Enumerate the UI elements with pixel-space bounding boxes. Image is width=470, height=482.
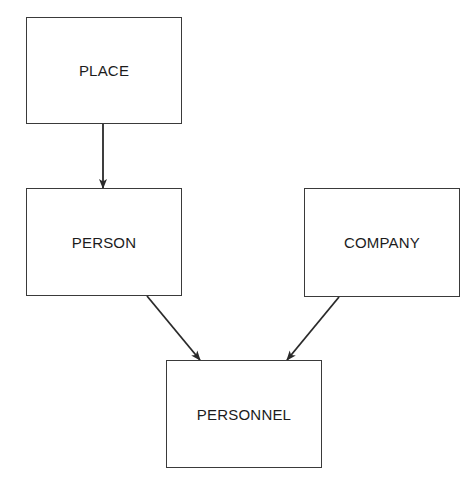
entity-place: PLACE [26,17,182,124]
entity-label: PERSONNEL [197,406,291,423]
entity-personnel: PERSONNEL [166,360,322,468]
entity-person: PERSON [26,188,182,296]
entity-label: COMPANY [344,234,420,251]
arrow-person-to-personnel [147,296,200,360]
arrow-company-to-personnel [287,297,339,360]
diagram-canvas: PLACE PERSON COMPANY PERSONNEL [0,0,470,482]
entity-label: PERSON [72,234,137,251]
entity-company: COMPANY [304,188,460,297]
entity-label: PLACE [79,62,129,79]
